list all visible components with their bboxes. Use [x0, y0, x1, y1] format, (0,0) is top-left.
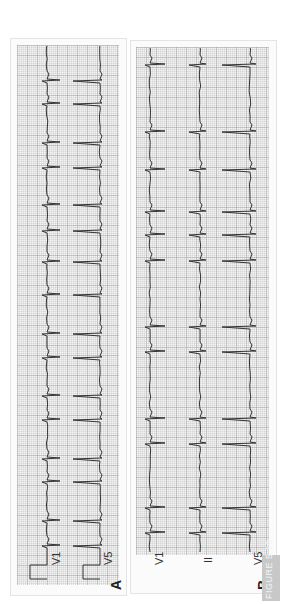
figure-label-text: FIGURE 5.10	[264, 539, 274, 599]
traces-panel-b	[145, 48, 256, 552]
ecg-traces	[0, 0, 289, 604]
figure-label: FIGURE 5.10	[262, 555, 280, 601]
traces-panel-a	[30, 46, 102, 579]
lead-label-a-v1: V1	[50, 552, 62, 565]
lead-label-b-v1: V1	[153, 552, 165, 565]
panel-letter-a: A	[108, 580, 124, 590]
lead-label-b-ii: II	[202, 557, 214, 563]
lead-label-a-v5: V5	[102, 552, 114, 565]
